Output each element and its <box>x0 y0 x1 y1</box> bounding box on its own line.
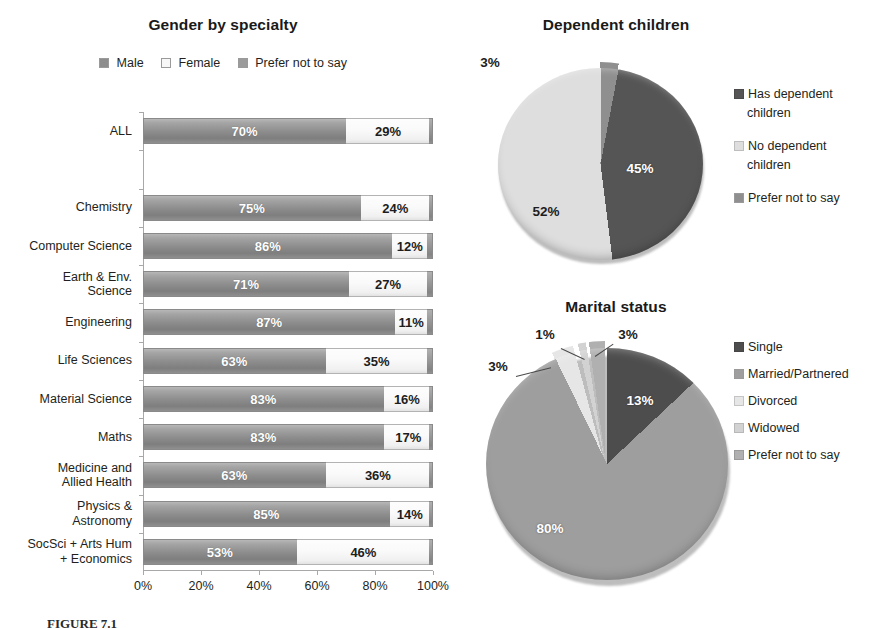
table-row[interactable]: 85%14% <box>143 501 433 527</box>
pie2-legend-swatch-prefer <box>734 450 744 460</box>
legend-label-female: Female <box>179 56 221 70</box>
table-row[interactable]: 87%11% <box>143 309 433 335</box>
pie2-legend-label-widowed: Widowed <box>748 421 799 435</box>
bar-value-label-female: 17% <box>395 430 421 445</box>
value-axis-label: 100% <box>417 579 449 593</box>
legend-label-prefer-not-to-say: Prefer not to say <box>255 56 347 70</box>
pie2-legend: Single Married/Partnered Divorced Widowe… <box>734 338 891 467</box>
bar-chart-title: Gender by specialty <box>0 16 446 34</box>
bar-value-label-female: 11% <box>399 315 424 330</box>
pie1-legend-item-no: No dependent children <box>734 137 891 175</box>
pie1-disc <box>498 68 703 260</box>
table-row[interactable]: 86%12% <box>143 233 433 259</box>
table-row[interactable]: 83%17% <box>143 424 433 450</box>
pie1-value-has: 45% <box>626 161 653 176</box>
table-row[interactable]: 53%46% <box>143 539 433 565</box>
bar-value-label-female: 16% <box>394 391 420 406</box>
bar-value-label-male: 63% <box>221 353 247 368</box>
value-axis-label: 20% <box>188 579 213 593</box>
bar-category-label: Physics &Astronomy <box>8 499 132 528</box>
category-tick <box>139 189 143 190</box>
category-axis-line <box>143 570 433 571</box>
pie2-legend-swatch-widowed <box>734 423 744 433</box>
bar-value-label-female: 36% <box>365 468 391 483</box>
pie2-legend-label-prefer: Prefer not to say <box>748 448 840 462</box>
bar-category-label-line: Maths <box>8 430 132 445</box>
bar-segment-prefer-not-to-say[interactable] <box>429 539 433 565</box>
bar-category-label: Computer Science <box>8 239 132 254</box>
legend-item-female: Female <box>161 56 220 70</box>
value-axis-label: 0% <box>134 579 152 593</box>
bar-segment-prefer-not-to-say[interactable] <box>429 424 433 450</box>
bar-segment-prefer-not-to-say[interactable] <box>429 195 433 221</box>
category-tick <box>139 456 143 457</box>
bar-plot-area: 70%29%75%24%86%12%71%27%87%11%63%35%83%1… <box>143 112 433 571</box>
bar-category-label-line: Physics & <box>8 499 132 514</box>
table-row[interactable]: 83%16% <box>143 386 433 412</box>
pie2-graphic: 13% 80% 3% 1% 3% <box>482 338 732 588</box>
pie2-legend-item-married: Married/Partnered <box>734 365 891 384</box>
figure-canvas: Gender by specialty Male Female Prefer n… <box>0 0 891 628</box>
dependent-children-chart: Dependent children 45% 52% 3% Has depend… <box>446 0 891 285</box>
bar-segment-prefer-not-to-say[interactable] <box>427 348 433 374</box>
table-row[interactable]: 63%36% <box>143 462 433 488</box>
bar-category-label-line: Science <box>8 284 132 299</box>
bar-segment-prefer-not-to-say[interactable] <box>427 271 433 297</box>
category-tick <box>139 227 143 228</box>
pie2-legend-swatch-divorced <box>734 396 744 406</box>
pie2-legend-item-single: Single <box>734 338 891 357</box>
category-tick <box>139 265 143 266</box>
bar-category-label-line: Earth & Env. <box>8 270 132 285</box>
bar-category-label: Maths <box>8 430 132 445</box>
pie1-legend-label-no-l1: No dependent <box>748 139 827 153</box>
value-tick <box>375 571 376 575</box>
pie2-disc <box>486 348 728 580</box>
figure-caption: FIGURE 7.1 <box>47 616 467 628</box>
pie1-value-no: 52% <box>532 204 559 219</box>
pie1-graphic: 45% 52% 3% <box>494 56 714 266</box>
bar-segment-prefer-not-to-say[interactable] <box>429 462 433 488</box>
pie1-title: Dependent children <box>466 16 766 34</box>
pie1-legend: Has dependent children No dependent chil… <box>734 85 891 210</box>
legend-item-prefer-not-to-say: Prefer not to say <box>238 56 347 70</box>
bar-category-label-line: ALL <box>8 124 132 139</box>
bar-value-label-male: 86% <box>255 238 281 253</box>
value-tick <box>143 571 144 575</box>
pie2-legend-swatch-single <box>734 342 744 352</box>
category-tick <box>139 380 143 381</box>
bar-value-label-female: 14% <box>397 506 423 521</box>
bar-category-label: Engineering <box>8 315 132 330</box>
table-row[interactable]: 63%35% <box>143 348 433 374</box>
value-tick <box>433 571 434 575</box>
pie1-legend-swatch-has <box>734 89 744 99</box>
table-row[interactable]: 71%27% <box>143 271 433 297</box>
value-tick <box>259 571 260 575</box>
category-tick <box>139 533 143 534</box>
bar-category-label: ALL <box>8 124 132 139</box>
bar-category-label: Medicine andAllied Health <box>8 461 132 490</box>
pie1-legend-label-prefer: Prefer not to say <box>748 191 840 205</box>
pie1-value-prefer: 3% <box>480 55 500 70</box>
legend-swatch-male <box>99 58 109 68</box>
legend-label-male: Male <box>117 56 144 70</box>
legend-swatch-female <box>161 58 171 68</box>
gender-by-specialty-chart: Gender by specialty Male Female Prefer n… <box>0 0 446 628</box>
bar-value-label-female: 12% <box>397 238 423 253</box>
pie2-legend-item-divorced: Divorced <box>734 392 891 411</box>
bar-segment-prefer-not-to-say[interactable] <box>427 233 433 259</box>
bar-segment-prefer-not-to-say[interactable] <box>429 501 433 527</box>
bar-category-label: Material Science <box>8 392 132 407</box>
bar-segment-prefer-not-to-say[interactable] <box>429 386 433 412</box>
category-tick <box>139 418 143 419</box>
bar-category-label-line: Chemistry <box>8 200 132 215</box>
bar-segment-prefer-not-to-say[interactable] <box>427 309 433 335</box>
category-tick <box>139 342 143 343</box>
pie2-legend-item-prefer: Prefer not to say <box>734 446 891 465</box>
table-row[interactable]: 75%24% <box>143 195 433 221</box>
bar-category-label: Chemistry <box>8 200 132 215</box>
bar-segment-prefer-not-to-say[interactable] <box>429 118 433 144</box>
pie2-value-divorced: 3% <box>488 359 508 374</box>
table-row[interactable]: 70%29% <box>143 118 433 144</box>
value-axis-label: 60% <box>304 579 329 593</box>
bar-value-label-female: 27% <box>375 277 401 292</box>
